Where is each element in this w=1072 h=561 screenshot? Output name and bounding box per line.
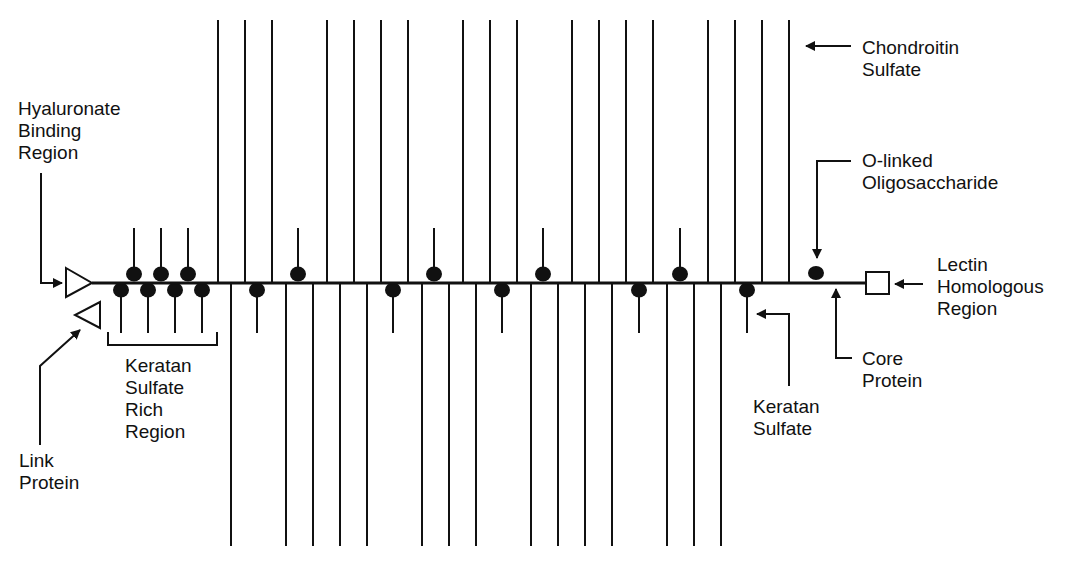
chondroitin-sulfate-chains-down <box>231 283 721 546</box>
proteoglycan-diagram: Hyaluronate Binding Region Link Protein … <box>0 0 1072 561</box>
diagram-canvas <box>0 0 1072 561</box>
hyaluronate-binding-triangle-icon <box>66 268 92 297</box>
lectin-homologous-region-label: Lectin Homologous Region <box>937 254 1044 320</box>
keratan-sulfate-dot-icon <box>180 267 196 282</box>
chondroitin-sulfate-label: Chondroitin Sulfate <box>862 37 959 81</box>
keratan-sulfate-rich-region-label: Keratan Sulfate Rich Region <box>125 355 192 443</box>
keratan-sulfate-arrow-icon <box>757 314 789 386</box>
lectin-homologous-square-icon <box>866 272 889 294</box>
link-protein-label: Link Protein <box>19 450 79 494</box>
keratan-sulfate-dot-icon <box>153 267 169 282</box>
core-protein-arrow-icon <box>836 289 852 358</box>
o-linked-arrow-icon <box>817 161 851 258</box>
keratan-sulfate-dot-icon <box>126 267 142 282</box>
keratan-sulfate-dot-icon <box>167 283 183 298</box>
keratan-sulfate-dot-icon <box>494 283 510 298</box>
link-protein-arrow-icon <box>40 330 80 445</box>
keratan-sulfate-dot-icon <box>631 283 647 298</box>
keratan-sulfate-rich-bracket <box>108 332 217 345</box>
link-protein-triangle-icon <box>75 302 100 328</box>
keratan-sulfate-dot-icon <box>290 267 306 282</box>
keratan-sulfate-label: Keratan Sulfate <box>753 396 820 440</box>
core-protein-label: Core Protein <box>862 348 922 392</box>
keratan-sulfate-dot-icon <box>113 283 129 298</box>
keratan-sulfate-chains <box>113 228 755 333</box>
keratan-sulfate-dot-icon <box>672 267 688 282</box>
hyaluronate-arrow-icon <box>41 173 62 283</box>
keratan-sulfate-dot-icon <box>140 283 156 298</box>
keratan-sulfate-dot-icon <box>535 267 551 282</box>
keratan-sulfate-dot-icon <box>739 283 755 298</box>
o-linked-oligosaccharide-label: O-linked Oligosaccharide <box>862 150 998 194</box>
keratan-sulfate-dot-icon <box>426 267 442 282</box>
o-linked-oligosaccharide-dot-icon <box>808 266 824 280</box>
chondroitin-sulfate-chains-up <box>218 20 789 283</box>
keratan-sulfate-dot-icon <box>249 283 265 298</box>
hyaluronate-binding-region-label: Hyaluronate Binding Region <box>18 98 120 164</box>
keratan-sulfate-dot-icon <box>194 283 210 298</box>
keratan-sulfate-dot-icon <box>385 283 401 298</box>
